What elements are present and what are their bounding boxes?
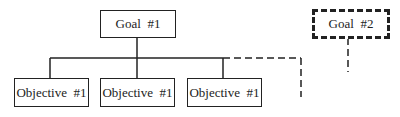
objective-node-1: Objective #1 (14, 78, 89, 107)
objective-1-label: Objective #1 (16, 85, 86, 101)
objective-2-label: Objective #1 (102, 85, 172, 101)
goal-2-label: Goal #2 (329, 16, 374, 32)
goal-1-label: Goal #1 (116, 16, 161, 32)
objective-node-3: Objective #1 (187, 78, 262, 107)
goal-1-node: Goal #1 (100, 10, 176, 38)
objective-node-2: Objective #1 (100, 78, 175, 107)
goal-2-node: Goal #2 (312, 9, 390, 39)
objective-3-label: Objective #1 (189, 85, 259, 101)
